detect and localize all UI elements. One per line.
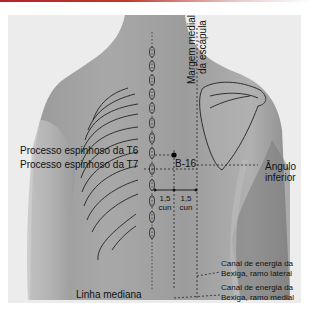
- label-t7-spinous-process: Processo espinhoso da T7: [20, 159, 138, 170]
- label-t6-spinous-process: Processo espinhoso da T6: [20, 145, 138, 156]
- label-b16-point: B-16: [175, 158, 196, 169]
- label-scapula-medial-margin: Margem medial da escápula: [186, 15, 208, 84]
- label-cun-lateral: 1,5 cun: [177, 194, 195, 212]
- label-midline: Linha mediana: [76, 289, 142, 300]
- acupoint-b16-marker: [171, 152, 176, 157]
- label-bladder-channel-medial: Canal de energia da Bexiga, ramo medial: [221, 283, 294, 303]
- label-inferior-angle: Ângulo inferior: [265, 161, 296, 183]
- label-cun-medial: 1,5 cun: [156, 194, 174, 212]
- label-bladder-channel-lateral: Canal de energia da Bexiga, ramo lateral: [221, 259, 293, 279]
